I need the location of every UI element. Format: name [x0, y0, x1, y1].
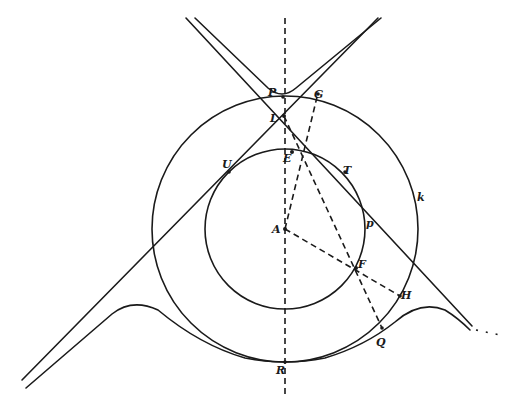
label-A: A: [271, 223, 281, 236]
label-T: T: [343, 164, 352, 177]
label-R: R: [275, 364, 285, 377]
dashed-line-A-H: [285, 229, 400, 296]
right-dotted-extension: [476, 330, 500, 335]
point-Q: [380, 326, 384, 330]
label-P: P: [267, 86, 277, 99]
label-U: U: [222, 158, 233, 171]
label-p: p: [366, 217, 374, 230]
label-F: F: [357, 258, 367, 271]
point-A: [283, 227, 287, 231]
upper-curve: [195, 18, 381, 94]
label-G: G: [314, 88, 323, 101]
geometry-diagram: P G L E U T k p A F H Q R: [0, 0, 508, 403]
tangent-line-through-U: [22, 18, 378, 380]
label-L: L: [269, 112, 278, 125]
label-k: k: [417, 191, 425, 204]
label-H: H: [400, 289, 412, 302]
lower-curve: [26, 305, 470, 388]
point-P: [281, 95, 285, 99]
label-E: E: [282, 152, 292, 165]
label-Q: Q: [376, 336, 386, 349]
point-L: [282, 114, 286, 118]
